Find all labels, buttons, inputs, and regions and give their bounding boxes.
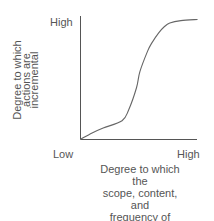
y-tick-high: High	[50, 16, 73, 28]
curve-line	[81, 19, 198, 139]
x-label-line: frequency of choice	[93, 211, 187, 221]
x-axis-label: Degree to which the scope, content, and …	[93, 163, 187, 221]
y-label-line: incremental	[30, 20, 39, 140]
y-axis-label: Degree to which actions are incremental	[13, 20, 39, 140]
x-tick-low: Low	[53, 148, 73, 160]
x-label-line: scope, content, and	[93, 187, 187, 211]
x-tick-high: High	[177, 148, 200, 160]
x-label-line: Degree to which the	[93, 163, 187, 187]
chart: High Low High Degree to which actions ar…	[0, 0, 214, 221]
